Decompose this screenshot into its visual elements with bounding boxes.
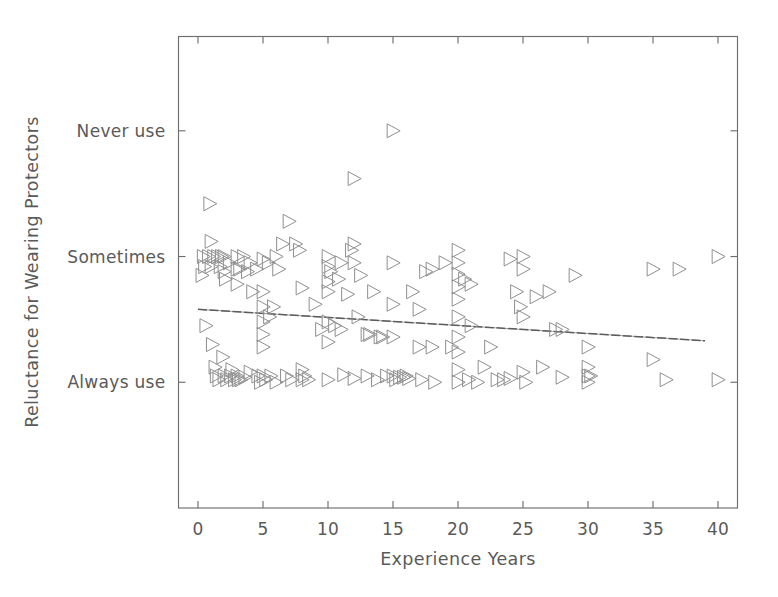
data-point-marker xyxy=(569,268,582,282)
data-point-marker xyxy=(252,369,265,383)
data-point-marker xyxy=(582,340,595,354)
data-point-marker xyxy=(206,338,219,352)
x-tick-label: 0 xyxy=(192,519,203,539)
data-point-marker xyxy=(205,234,218,248)
data-point-marker xyxy=(338,368,351,382)
x-tick-label: 10 xyxy=(317,519,339,539)
y-tick-labels: Always useSometimesNever use xyxy=(67,121,165,392)
data-point-marker xyxy=(413,302,426,316)
scatter-markers xyxy=(196,124,725,389)
data-point-marker xyxy=(333,272,346,286)
data-point-marker xyxy=(196,268,209,282)
data-point-marker xyxy=(257,327,270,341)
regression-line-dashes xyxy=(198,309,705,340)
data-point-marker xyxy=(368,285,381,299)
data-point-marker xyxy=(387,124,400,138)
data-point-marker xyxy=(346,243,359,257)
data-point-marker xyxy=(296,281,309,295)
data-point-marker xyxy=(452,292,465,306)
data-point-marker xyxy=(322,285,335,299)
data-point-marker xyxy=(257,340,270,354)
data-point-marker xyxy=(452,375,465,389)
data-point-marker xyxy=(348,172,361,186)
data-point-marker xyxy=(309,297,322,311)
data-point-marker xyxy=(322,335,335,349)
data-point-marker xyxy=(530,290,543,304)
data-point-marker xyxy=(712,250,725,264)
data-point-marker xyxy=(647,262,660,276)
data-point-marker xyxy=(712,373,725,387)
plot-canvas: 0510152025303540 Always useSometimesNeve… xyxy=(0,0,778,597)
data-point-marker xyxy=(322,250,335,264)
data-point-marker xyxy=(517,262,530,276)
x-tick-labels: 0510152025303540 xyxy=(192,519,729,539)
data-point-marker xyxy=(387,256,400,270)
data-point-marker xyxy=(504,371,517,385)
x-tick-label: 25 xyxy=(512,519,534,539)
data-point-marker xyxy=(352,310,365,324)
regression-line xyxy=(198,309,705,340)
x-tick-label: 40 xyxy=(707,519,729,539)
data-point-marker xyxy=(413,340,426,354)
y-tick-label: Always use xyxy=(67,372,165,392)
data-point-marker xyxy=(361,369,374,383)
data-point-marker xyxy=(660,373,673,387)
y-axis-title: Reluctance for Wearing Protectors xyxy=(22,116,42,428)
data-point-marker xyxy=(426,340,439,354)
y-tick-label: Sometimes xyxy=(67,247,165,267)
data-point-marker xyxy=(355,268,368,282)
data-point-marker xyxy=(342,287,355,301)
data-point-marker xyxy=(204,197,217,211)
data-point-marker xyxy=(348,237,361,251)
data-point-marker xyxy=(485,340,498,354)
data-point-marker xyxy=(452,243,465,257)
data-point-marker xyxy=(247,285,260,299)
data-point-marker xyxy=(511,285,524,299)
data-point-marker xyxy=(283,214,296,228)
x-tick-label: 15 xyxy=(382,519,404,539)
data-point-marker xyxy=(556,370,569,384)
data-point-marker xyxy=(372,373,385,387)
data-point-marker xyxy=(647,353,660,367)
data-point-marker xyxy=(673,262,686,276)
data-point-marker xyxy=(217,350,230,364)
data-point-marker xyxy=(277,237,290,251)
data-point-marker xyxy=(416,373,429,387)
data-point-marker xyxy=(290,237,303,251)
data-point-marker xyxy=(452,363,465,377)
data-point-marker xyxy=(543,285,556,299)
data-point-marker xyxy=(517,310,530,324)
data-point-marker xyxy=(242,265,255,279)
data-point-marker xyxy=(244,365,257,379)
x-axis-title: Experience Years xyxy=(380,549,536,569)
x-tick-label: 5 xyxy=(257,519,268,539)
data-point-marker xyxy=(452,310,465,324)
scatter-plot-figure: 0510152025303540 Always useSometimesNeve… xyxy=(0,0,778,597)
data-point-marker xyxy=(463,373,476,387)
data-point-marker xyxy=(517,250,530,264)
x-tick-label: 30 xyxy=(577,519,599,539)
data-point-marker xyxy=(335,322,348,336)
data-point-marker xyxy=(299,369,312,383)
y-tick-label: Never use xyxy=(77,121,166,141)
x-tick-label: 35 xyxy=(642,519,664,539)
data-point-marker xyxy=(504,252,517,266)
data-point-marker xyxy=(439,256,452,270)
data-point-marker xyxy=(452,330,465,344)
data-point-marker xyxy=(200,319,213,333)
data-point-marker xyxy=(407,285,420,299)
x-tick-label: 20 xyxy=(447,519,469,539)
data-point-marker xyxy=(472,375,485,389)
data-point-marker xyxy=(273,262,286,276)
data-point-marker xyxy=(387,297,400,311)
data-point-marker xyxy=(348,371,361,385)
data-point-marker xyxy=(478,360,491,374)
data-point-marker xyxy=(537,360,550,374)
data-point-marker xyxy=(335,256,348,270)
data-point-marker xyxy=(520,375,533,389)
data-point-marker xyxy=(322,373,335,387)
data-point-marker xyxy=(429,375,442,389)
data-point-marker xyxy=(348,256,361,270)
